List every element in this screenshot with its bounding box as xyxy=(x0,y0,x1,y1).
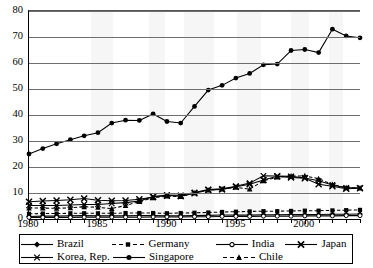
legend-label: Chile xyxy=(256,250,283,263)
data-point-marker xyxy=(27,152,32,157)
legend-row-2: Korea, Rep.SingaporeChile xyxy=(20,250,352,263)
legend-item-india[interactable]: India xyxy=(215,237,285,250)
legend-item-germany[interactable]: Germany xyxy=(111,237,214,250)
gridline-20 xyxy=(29,167,360,168)
plot-wrapper: 01020304050607080 19801985199019952000 xyxy=(0,0,373,228)
y-tick-label-50: 50 xyxy=(13,83,24,93)
data-point-marker xyxy=(82,133,87,138)
data-point-marker xyxy=(358,208,362,212)
legend-item-chile[interactable]: Chile xyxy=(222,250,292,263)
data-point-marker xyxy=(34,241,40,247)
x-tick-label-1995: 1995 xyxy=(224,218,245,230)
legend-marker-square-icon xyxy=(111,237,145,250)
y-axis: 01020304050607080 xyxy=(0,0,26,228)
legend-label: India xyxy=(249,237,275,250)
y-tick-label-70: 70 xyxy=(13,31,24,41)
data-point-marker xyxy=(178,121,183,126)
data-point-marker xyxy=(275,209,279,213)
legend-marker-circle-filled-icon xyxy=(112,250,146,263)
legend-label: Singapore xyxy=(146,250,194,263)
data-point-marker xyxy=(40,146,45,151)
data-point-marker xyxy=(126,255,131,260)
legend-marker-diamond-icon xyxy=(20,237,54,250)
x-axis: 19801985199019952000 xyxy=(0,218,373,234)
data-point-marker xyxy=(126,242,130,246)
x-tick-label-1985: 1985 xyxy=(86,218,107,230)
gridline-40 xyxy=(29,115,360,116)
data-point-marker xyxy=(137,211,141,215)
y-tick-label-30: 30 xyxy=(13,135,24,145)
x-tick-label-2000: 2000 xyxy=(293,218,314,230)
legend-label: Korea, Rep. xyxy=(54,250,110,263)
gridline-60 xyxy=(29,63,360,64)
legend-item-singapore[interactable]: Singapore xyxy=(112,250,222,263)
y-tick-label-40: 40 xyxy=(13,109,24,119)
line-chart: 01020304050607080 19801985199019952000 B… xyxy=(0,0,373,268)
data-point-marker xyxy=(317,209,321,213)
legend-item-korea-rep[interactable]: Korea, Rep. xyxy=(20,250,112,263)
data-point-marker xyxy=(165,119,170,124)
x-tick-label-1980: 1980 xyxy=(18,218,39,230)
legend-marker-circle-open-icon xyxy=(215,237,249,250)
data-point-marker xyxy=(123,211,127,215)
x-tick-label-1990: 1990 xyxy=(155,218,176,230)
data-point-marker xyxy=(220,83,225,88)
gridline-10 xyxy=(29,193,360,194)
data-point-marker xyxy=(137,118,142,123)
y-tick-label-80: 80 xyxy=(13,5,24,15)
data-point-marker xyxy=(68,211,72,215)
plot-area xyxy=(28,10,360,219)
data-point-marker xyxy=(261,209,265,213)
legend-marker-triangle-icon xyxy=(222,250,256,263)
data-point-marker xyxy=(236,254,242,260)
y-tick-label-20: 20 xyxy=(13,161,24,171)
legend: BrazilGermanyIndiaJapan Korea, Rep.Singa… xyxy=(19,234,353,264)
legend-marker-x-icon xyxy=(284,237,318,250)
gridline-30 xyxy=(29,141,360,142)
legend-row-1: BrazilGermanyIndiaJapan xyxy=(20,237,352,250)
legend-label: Brazil xyxy=(54,237,84,250)
legend-label: Germany xyxy=(145,237,189,250)
legend-label: Japan xyxy=(318,237,346,250)
y-tick-label-60: 60 xyxy=(13,57,24,67)
legend-item-brazil[interactable]: Brazil xyxy=(20,237,111,250)
gridline-50 xyxy=(29,89,360,90)
y-tick-label-10: 10 xyxy=(13,187,24,197)
data-point-marker xyxy=(123,118,128,123)
data-point-marker xyxy=(316,50,321,55)
legend-item-japan[interactable]: Japan xyxy=(284,237,352,250)
gridline-70 xyxy=(29,37,360,38)
gridline-80 xyxy=(29,11,360,12)
data-point-marker xyxy=(344,208,348,212)
data-point-marker xyxy=(220,210,224,214)
data-point-marker xyxy=(230,242,234,246)
legend-marker-x-thin-icon xyxy=(20,250,54,263)
data-point-marker xyxy=(54,141,59,146)
